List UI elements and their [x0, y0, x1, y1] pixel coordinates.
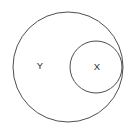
set-label-outer: Y [37, 60, 44, 71]
venn-diagram: Y X [0, 0, 135, 135]
venn-diagram-canvas: Y X [0, 0, 135, 135]
set-label-inner: X [94, 61, 101, 72]
set-circle-outer[interactable] [13, 12, 123, 122]
